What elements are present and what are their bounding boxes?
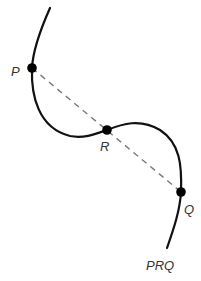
label-p: P	[11, 64, 20, 79]
point-r-dot	[102, 125, 112, 135]
point-q-dot	[176, 187, 186, 197]
label-r: R	[100, 139, 109, 154]
point-p-dot	[27, 63, 37, 73]
diagram-canvas: P R Q PRQ	[0, 0, 201, 281]
label-q: Q	[184, 202, 194, 217]
label-curve-prq: PRQ	[146, 258, 174, 273]
